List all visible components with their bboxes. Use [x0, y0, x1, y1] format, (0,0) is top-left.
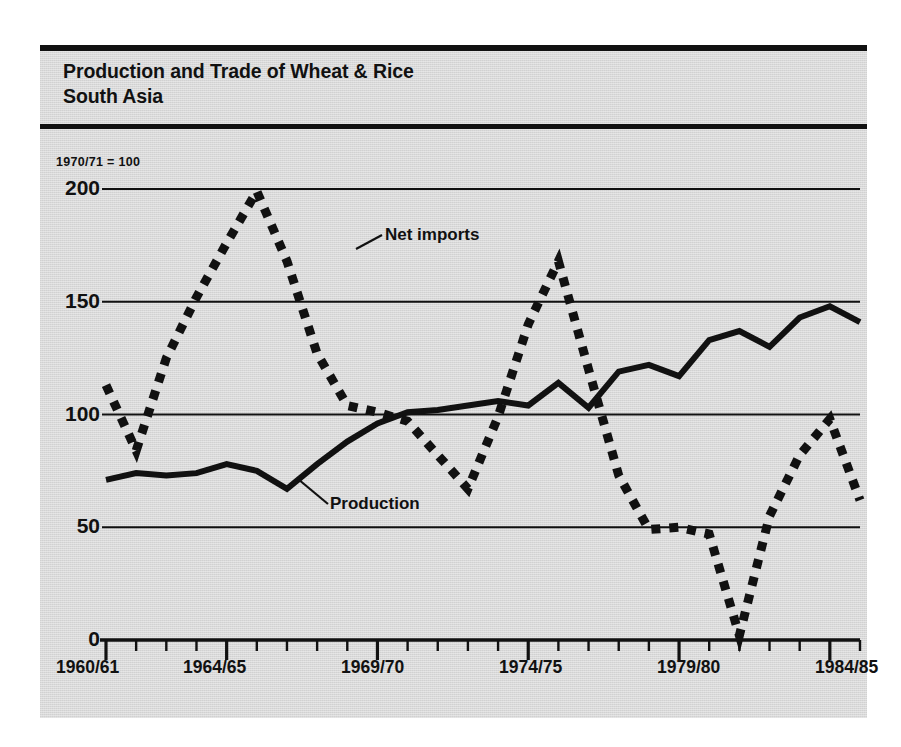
annotation-leader-lines [298, 235, 382, 504]
gridlines-group [102, 189, 860, 527]
leader-line-production [298, 479, 328, 504]
figure-root: Production and Trade of Wheat & Rice Sou… [0, 0, 901, 747]
chart-panel: Production and Trade of Wheat & Rice Sou… [40, 45, 867, 718]
plot-area [40, 45, 867, 718]
series-line-net-imports [106, 191, 860, 635]
leader-line-net-imports [356, 235, 382, 249]
x-axis-group [100, 640, 860, 660]
series-group [106, 191, 860, 635]
plot-svg [40, 45, 867, 718]
